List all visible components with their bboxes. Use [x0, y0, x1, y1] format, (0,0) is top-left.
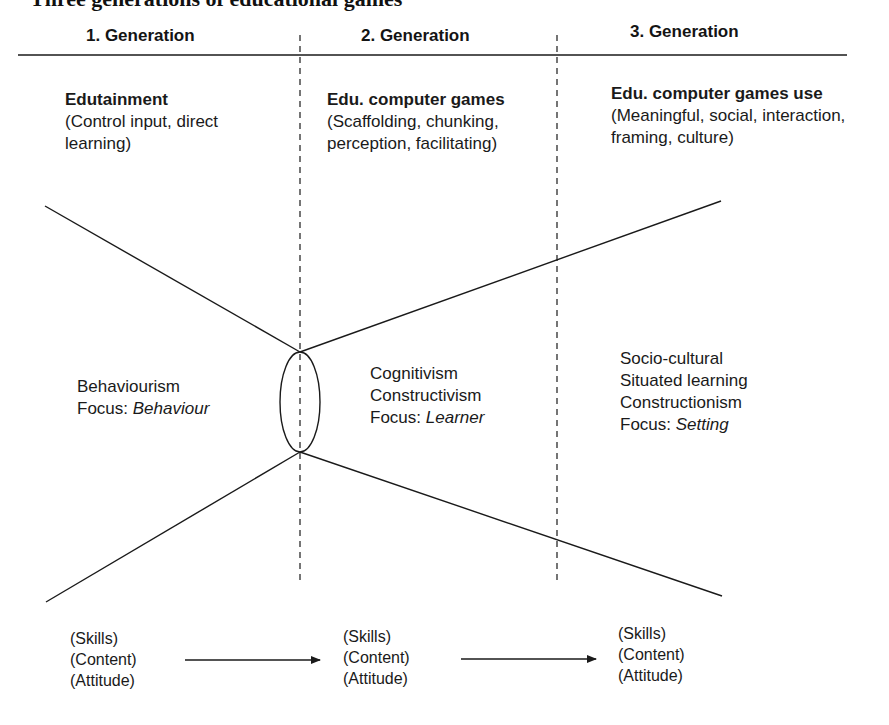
theory-line: Constructionism [620, 392, 748, 414]
outcome-attitude: (Attitude) [70, 670, 137, 691]
focus-value: Learner [426, 408, 485, 427]
funnel-upper-left-line [45, 206, 300, 352]
funnel-lower-right-line [300, 452, 722, 596]
focus-value: Behaviour [133, 399, 210, 418]
generation-1-era: Edutainment (Control input, direct learn… [65, 89, 280, 155]
generation-2-header: 2. Generation [361, 26, 470, 46]
outcome-skills: (Skills) [618, 623, 685, 644]
generation-3-theory: Socio-cultural Situated learning Constru… [620, 348, 748, 436]
generation-1-outcomes: (Skills) (Content) (Attitude) [70, 628, 137, 691]
generation-2-era: Edu. computer games (Scaffolding, chunki… [327, 89, 552, 155]
figure-title-cut-off: Three generations of educational games [30, 0, 402, 12]
outcome-content: (Content) [618, 644, 685, 665]
outcome-skills: (Skills) [343, 626, 410, 647]
outcome-content: (Content) [343, 647, 410, 668]
theory-line: Socio-cultural [620, 348, 748, 370]
theory-focus: Focus: Setting [620, 414, 748, 436]
theory-line: Behaviourism [77, 376, 209, 398]
theory-line: Constructivism [370, 385, 484, 407]
theory-line: Situated learning [620, 370, 748, 392]
outcome-attitude: (Attitude) [618, 665, 685, 686]
generations-diagram: Three generations of educational games 1… [0, 0, 889, 725]
generation-3-header: 3. Generation [630, 22, 739, 42]
era-title: Edu. computer games use [611, 83, 881, 105]
outcome-attitude: (Attitude) [343, 668, 410, 689]
funnel-lower-left-line [46, 452, 300, 602]
era-title: Edutainment [65, 89, 280, 111]
era-description: (Control input, direct learning) [65, 111, 280, 155]
generation-3-outcomes: (Skills) (Content) (Attitude) [618, 623, 685, 686]
generation-1-header: 1. Generation [86, 26, 195, 46]
theory-focus: Focus: Learner [370, 407, 484, 429]
era-description: (Meaningful, social, interaction, framin… [611, 105, 881, 149]
focus-value: Setting [676, 415, 729, 434]
generation-1-theory: Behaviourism Focus: Behaviour [77, 376, 209, 420]
outcome-skills: (Skills) [70, 628, 137, 649]
focus-label: Focus: [620, 415, 671, 434]
era-description: (Scaffolding, chunking, perception, faci… [327, 111, 552, 155]
outcome-content: (Content) [70, 649, 137, 670]
generation-3-era: Edu. computer games use (Meaningful, soc… [611, 83, 881, 149]
funnel-upper-right-line [300, 201, 721, 352]
focus-label: Focus: [77, 399, 128, 418]
generation-2-outcomes: (Skills) (Content) (Attitude) [343, 626, 410, 689]
generation-2-theory: Cognitivism Constructivism Focus: Learne… [370, 363, 484, 429]
theory-line: Cognitivism [370, 363, 484, 385]
theory-focus: Focus: Behaviour [77, 398, 209, 420]
focus-label: Focus: [370, 408, 421, 427]
era-title: Edu. computer games [327, 89, 552, 111]
